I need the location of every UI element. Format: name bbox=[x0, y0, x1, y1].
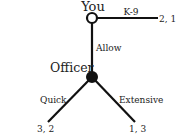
payoff-k9: 2, 1 bbox=[159, 14, 176, 24]
edge-k9-label: K-9 bbox=[124, 7, 139, 17]
edge-allow-label: Allow bbox=[95, 43, 122, 53]
root-node-label: You bbox=[80, 0, 105, 14]
payoff-extensive: 1, 3 bbox=[129, 124, 146, 134]
edge-quick-label: Quick bbox=[40, 95, 67, 105]
root-node-you bbox=[87, 13, 97, 23]
edge-extensive-label: Extensive bbox=[119, 95, 163, 105]
game-tree-diagram: You Officer K-9 Allow Quick Extensive 2,… bbox=[0, 0, 186, 138]
officer-node-label: Officer bbox=[50, 60, 94, 75]
payoff-quick: 3, 2 bbox=[37, 124, 54, 134]
